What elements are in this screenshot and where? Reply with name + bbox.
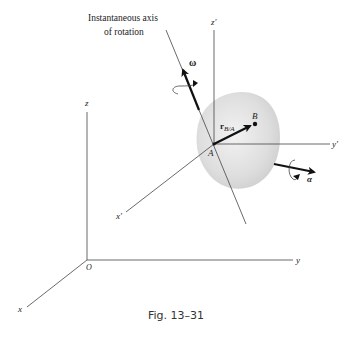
y-label: y: [295, 255, 300, 265]
omega-label: ω: [189, 57, 196, 68]
x-prime-axis: [126, 144, 214, 212]
a-label: A: [207, 148, 214, 158]
alpha-label: α: [307, 174, 313, 184]
axis-label-line1: Instantaneous axis: [88, 13, 158, 23]
axis-label-line2: of rotation: [104, 27, 144, 37]
x-prime-label: x′: [115, 211, 123, 221]
figure-caption: Fig. 13–31: [148, 309, 204, 322]
point-a-marker: [213, 143, 216, 146]
y-prime-label: y′: [331, 139, 339, 149]
x-label: x: [17, 304, 22, 314]
b-label: B: [252, 111, 258, 121]
z-label: z: [84, 98, 89, 108]
o-label: O: [86, 263, 92, 272]
rigid-body-diagram: Instantaneous axis of rotation z′ y′ x′ …: [0, 0, 352, 340]
x-axis: [27, 260, 87, 307]
rigid-body: [197, 92, 280, 189]
z-prime-label: z′: [210, 17, 218, 27]
point-b-marker: [253, 122, 257, 126]
omega-vector: [173, 70, 199, 110]
